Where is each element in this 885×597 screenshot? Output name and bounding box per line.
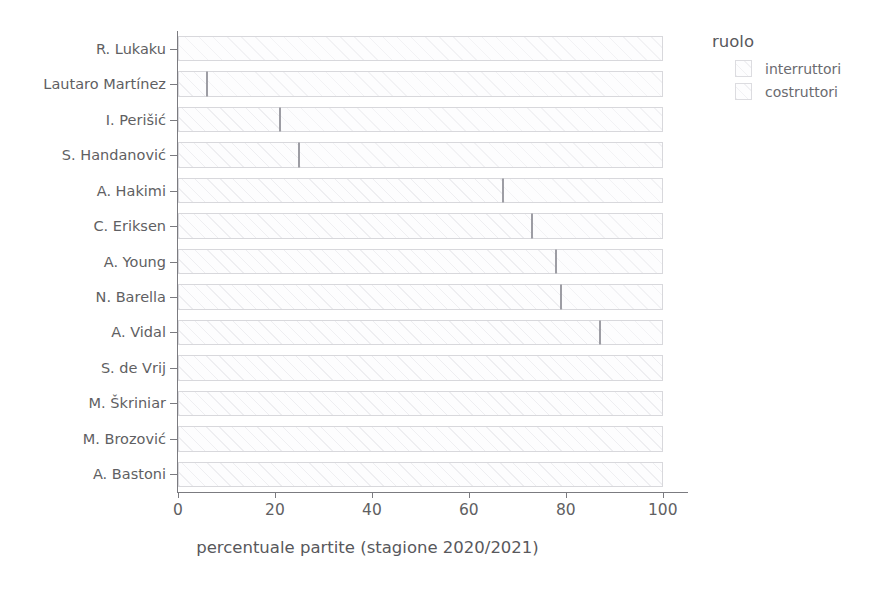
bar-row (178, 284, 687, 310)
bar-segment-costruttori (178, 36, 663, 62)
bar-row (178, 391, 687, 417)
chart-figure: 020406080100 R. LukakuLautaro MartínezI.… (0, 0, 885, 597)
x-tick-mark (372, 492, 373, 498)
bar-row (178, 320, 687, 346)
y-tick-mark (170, 403, 177, 404)
y-tick-mark (170, 120, 177, 121)
x-tick-label: 40 (362, 501, 382, 519)
x-axis-title: percentuale partite (stagione 2020/2021) (0, 538, 885, 557)
bar-row (178, 107, 687, 133)
bar-segment-interruttori (178, 426, 663, 452)
y-tick-label-8: A. Vidal (111, 324, 166, 340)
y-tick-mark (170, 262, 177, 263)
y-tick-label-6: A. Young (104, 254, 166, 270)
x-tick-label: 60 (459, 501, 479, 519)
y-tick-label-1: Lautaro Martínez (43, 76, 166, 92)
y-tick-mark (170, 155, 177, 156)
x-tick-label: 100 (648, 501, 678, 519)
x-tick-label: 0 (173, 501, 183, 519)
bar-segment-interruttori (178, 355, 663, 381)
x-tick-mark (178, 492, 179, 498)
legend-swatch-icon (735, 83, 752, 100)
legend-item-costruttori[interactable]: costruttori (735, 83, 877, 100)
y-tick-label-9: S. de Vrij (101, 360, 166, 376)
bar-row (178, 142, 687, 168)
bar-row (178, 178, 687, 204)
bar-segment-costruttori (207, 71, 663, 97)
y-tick-label-7: N. Barella (96, 289, 166, 305)
bar-row (178, 213, 687, 239)
bar-segment-costruttori (503, 178, 663, 204)
y-tick-mark (170, 226, 177, 227)
legend-item-interruttori[interactable]: interruttori (735, 60, 877, 77)
y-tick-label-4: A. Hakimi (97, 183, 166, 199)
bar-segment-costruttori (299, 142, 663, 168)
bar-row (178, 426, 687, 452)
bar-row (178, 462, 687, 488)
y-tick-label-12: A. Bastoni (93, 466, 166, 482)
x-tick-mark (566, 492, 567, 498)
x-tick-mark (469, 492, 470, 498)
x-tick-label: 20 (265, 501, 285, 519)
bar-row (178, 71, 687, 97)
bar-segment-interruttori (178, 71, 207, 97)
y-tick-mark (170, 368, 177, 369)
bar-segment-costruttori (556, 249, 663, 275)
y-tick-mark (170, 49, 177, 50)
bar-segment-costruttori (561, 284, 663, 310)
chart-legend: ruolo interruttoricostruttori (712, 32, 877, 106)
y-tick-mark (170, 191, 177, 192)
bar-segment-interruttori (178, 391, 663, 417)
bar-segment-costruttori (280, 107, 663, 133)
x-tick-mark (275, 492, 276, 498)
x-tick-label: 80 (556, 501, 576, 519)
y-tick-label-10: M. Škriniar (89, 395, 166, 411)
y-tick-label-5: C. Eriksen (93, 218, 166, 234)
bar-segment-interruttori (178, 284, 561, 310)
legend-item-label: costruttori (765, 84, 838, 100)
y-tick-label-2: I. Perišić (106, 112, 166, 128)
bar-segment-costruttori (600, 320, 663, 346)
bar-segment-interruttori (178, 178, 503, 204)
bar-segment-interruttori (178, 142, 299, 168)
bar-segment-costruttori (532, 213, 663, 239)
y-tick-label-3: S. Handanović (62, 147, 166, 163)
bar-segment-interruttori (178, 107, 280, 133)
legend-title: ruolo (712, 32, 877, 51)
y-tick-mark (170, 297, 177, 298)
bar-segment-interruttori (178, 249, 556, 275)
x-axis-line (178, 492, 688, 493)
y-axis-line (177, 31, 178, 493)
bar-row (178, 36, 687, 62)
plot-area (178, 31, 687, 492)
y-tick-mark (170, 84, 177, 85)
legend-item-label: interruttori (765, 61, 841, 77)
bar-segment-interruttori (178, 462, 663, 488)
bar-row (178, 355, 687, 381)
y-tick-mark (170, 332, 177, 333)
x-tick-mark (663, 492, 664, 498)
bar-segment-interruttori (178, 320, 600, 346)
bar-row (178, 249, 687, 275)
y-tick-label-11: M. Brozović (83, 431, 166, 447)
y-tick-label-0: R. Lukaku (96, 41, 166, 57)
bar-segment-interruttori (178, 213, 532, 239)
legend-swatch-icon (735, 60, 752, 77)
y-tick-mark (170, 439, 177, 440)
legend-items: interruttoricostruttori (712, 60, 877, 100)
y-tick-mark (170, 474, 177, 475)
